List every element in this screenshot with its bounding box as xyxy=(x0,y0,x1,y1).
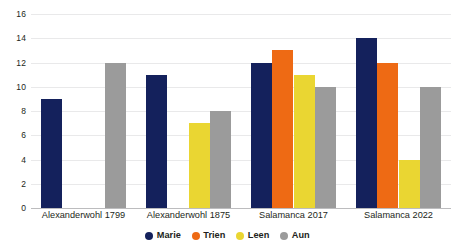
x-axis-category-label: Alexanderwohl 1875 xyxy=(136,210,241,220)
y-axis-tick-label: 0 xyxy=(0,203,26,213)
y-axis-tick-label: 10 xyxy=(0,82,26,92)
bar xyxy=(272,50,293,208)
legend-item[interactable]: Trien xyxy=(192,231,225,240)
bar xyxy=(294,75,315,208)
x-axis-category-label: Salamanca 2022 xyxy=(346,210,451,220)
axis-baseline xyxy=(31,208,451,209)
legend-item-label: Leen xyxy=(248,231,269,240)
x-axis-category-label: Alexanderwohl 1799 xyxy=(31,210,136,220)
bar xyxy=(189,123,210,208)
circle-marker xyxy=(192,232,200,240)
legend-item-label: Marie xyxy=(157,231,181,240)
bar xyxy=(105,63,126,209)
y-axis-tick-label: 14 xyxy=(0,33,26,43)
y-axis-tick-label: 12 xyxy=(0,58,26,68)
y-axis-tick-label: 2 xyxy=(0,179,26,189)
bar xyxy=(377,63,398,209)
y-axis-tick-label: 16 xyxy=(0,9,26,19)
bar xyxy=(315,87,336,208)
y-axis-tick-label: 4 xyxy=(0,155,26,165)
plot-area xyxy=(31,14,451,208)
legend-item[interactable]: Leen xyxy=(236,231,269,240)
legend-item-label: Trien xyxy=(203,231,225,240)
bars-layer xyxy=(31,14,451,208)
legend-item-label: Aun xyxy=(292,231,310,240)
x-axis-category-label: Salamanca 2017 xyxy=(241,210,346,220)
bar xyxy=(41,99,62,208)
circle-marker xyxy=(236,232,244,240)
bar xyxy=(146,75,167,208)
bar xyxy=(420,87,441,208)
x-axis-labels: Alexanderwohl 1799Alexanderwohl 1875Sala… xyxy=(31,210,451,226)
bar xyxy=(356,38,377,208)
bar xyxy=(251,63,272,209)
y-axis-tick-label: 8 xyxy=(0,106,26,116)
y-axis-tick-label: 6 xyxy=(0,130,26,140)
circle-marker xyxy=(145,232,153,240)
bar xyxy=(399,160,420,209)
legend-item[interactable]: Aun xyxy=(280,231,309,240)
circle-marker xyxy=(280,232,288,240)
bar-chart: Alexanderwohl 1799Alexanderwohl 1875Sala… xyxy=(0,0,455,252)
chart-legend: MarieTrienLeenAun xyxy=(0,231,455,240)
bar xyxy=(210,111,231,208)
legend-item[interactable]: Marie xyxy=(145,231,181,240)
